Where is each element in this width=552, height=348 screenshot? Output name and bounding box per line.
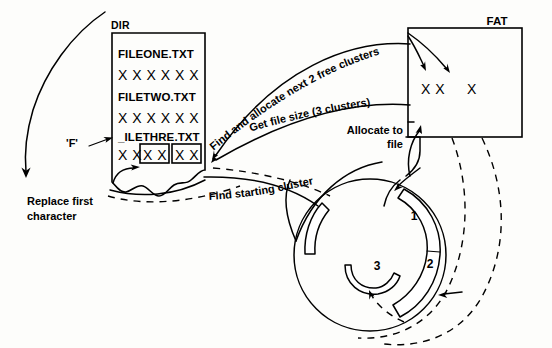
fat-undelete-diagram: DIR FAT FILEONE.TXT X X X X X X FILETWO.… (0, 0, 552, 348)
find-starting-cluster-label: Find starting cluster (208, 174, 314, 202)
dir-deleted-free-pair: X X (118, 147, 142, 163)
cluster-label-2: 2 (427, 257, 434, 271)
replace-character-pointer-curve (21, 12, 105, 178)
cluster-3-arc (345, 265, 400, 294)
replace-character-line1: Replace first (27, 195, 93, 207)
fat-heading: FAT (487, 15, 508, 27)
dir-entry-data-1: X X X X X X (118, 110, 199, 126)
diagram-canvas: DIR FAT FILEONE.TXT X X X X X X FILETWO.… (0, 0, 552, 348)
dir-deleted-filename: _ILETHRE.TXT (117, 131, 200, 143)
dir-heading: DIR (111, 19, 130, 31)
fat-existing-entry: X (467, 81, 477, 97)
cluster-1-arrow (394, 168, 420, 191)
dir-entry-data-0: X X X X X X (118, 67, 199, 83)
cluster-label-1: 1 (411, 209, 418, 223)
dir-deleted-boxed-pair-2: X X (175, 147, 199, 163)
cluster-2-arrow (438, 292, 462, 298)
dir-entry-filename-0: FILEONE.TXT (118, 48, 194, 60)
allocate-to-file-line2: file (387, 138, 403, 150)
dir-deleted-boxed-pair-1: X X (143, 147, 167, 163)
fat-allocated-pair: X X (421, 81, 445, 97)
replace-character-line2: character (27, 210, 77, 222)
replace-first-character-arrow (89, 137, 113, 146)
fat-entry-arrows (408, 33, 450, 73)
undelete-hook-arrow (113, 164, 140, 183)
allocate-to-file-line1: Allocate to (347, 124, 404, 136)
find-allocate-arrow (212, 44, 410, 160)
dir-entry-filename-1: FILETWO.TXT (118, 91, 196, 103)
cluster-label-3: 3 (374, 259, 381, 273)
replaced-character-label: 'F' (66, 137, 78, 149)
